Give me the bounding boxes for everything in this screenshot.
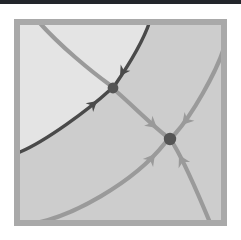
saddle-point (108, 83, 119, 94)
phase-portrait-canvas (0, 0, 241, 240)
phase-portrait-figure (0, 0, 241, 240)
plot-regions (17, 22, 224, 223)
stable-node (164, 133, 176, 145)
